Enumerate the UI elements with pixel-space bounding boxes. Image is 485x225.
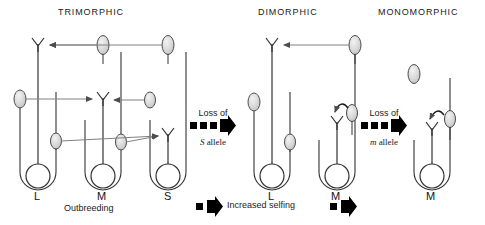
stigma: [426, 122, 438, 136]
arrow-head-block: [391, 115, 407, 136]
morph-label-monomorphic-M: M: [426, 190, 435, 202]
allele-word: allele: [207, 137, 227, 147]
allele-symbol-m: m: [370, 137, 377, 147]
flower-monomorphic-M: [408, 65, 456, 191]
morph-label-trimorphic-M: M: [97, 190, 106, 202]
anther: [408, 65, 420, 84]
transition-label-loss-m-allele: m allele: [355, 137, 413, 147]
anther: [445, 111, 456, 128]
selfing-arrow: [335, 104, 348, 112]
anther: [145, 92, 156, 108]
ovary: [325, 164, 349, 188]
morph-label-trimorphic-S: S: [164, 190, 171, 202]
bottom-process-arrow-left: [196, 196, 223, 217]
ovary: [26, 164, 50, 188]
heterostyly-diagram: [0, 0, 485, 225]
ovary: [420, 164, 444, 188]
dash-block: [381, 122, 388, 129]
dash-block: [190, 122, 197, 129]
flower-dimorphic-L: [248, 38, 296, 190]
pollination-arrows-trimorphic: [26, 45, 162, 142]
morph-label-dimorphic-M: M: [331, 190, 340, 202]
dash-block: [371, 122, 378, 129]
transition-arrow-loss-m: [361, 115, 407, 136]
flower-trimorphic-L: [14, 38, 62, 190]
ovary: [260, 164, 284, 188]
stigma: [97, 92, 109, 106]
transition-label-loss-s-allele: S allele: [184, 137, 242, 147]
allele-word: allele: [379, 137, 399, 147]
anther: [51, 133, 62, 149]
anther: [248, 93, 260, 111]
figure-canvas: TRIMORPHIC DIMORPHIC MONOMORPHIC: [0, 0, 485, 225]
selfing-arrow: [430, 111, 444, 119]
caption-outbreeding: Outbreeding: [64, 203, 114, 213]
dash-block: [200, 122, 207, 129]
bottom-process-label: Increased selfing: [227, 200, 295, 210]
stigma: [266, 38, 278, 52]
transition-arrow-loss-s: [190, 115, 236, 136]
stigma: [331, 116, 343, 130]
morph-label-trimorphic-L: L: [34, 190, 40, 202]
dash-block: [196, 203, 203, 210]
stigma: [32, 38, 44, 52]
arrow-head-block: [341, 196, 357, 217]
anther: [116, 134, 127, 150]
arrow-head-block: [220, 115, 236, 136]
allele-symbol-s: S: [200, 137, 205, 147]
ovary: [91, 164, 115, 188]
anther: [285, 134, 296, 150]
dash-block: [361, 122, 368, 129]
anther: [14, 90, 26, 108]
ovary: [156, 164, 180, 188]
transition-label-loss-m-top: Loss of: [357, 108, 411, 118]
flower-trimorphic-M: [85, 36, 127, 191]
anther: [349, 36, 361, 55]
flower-dimorphic-M: [319, 36, 361, 191]
dash-block: [330, 203, 337, 210]
transition-label-loss-s-top: Loss of: [186, 108, 240, 118]
anther: [162, 36, 174, 55]
arrow-head-block: [207, 196, 223, 217]
dash-block: [210, 122, 217, 129]
flower-trimorphic-S: [145, 36, 187, 191]
